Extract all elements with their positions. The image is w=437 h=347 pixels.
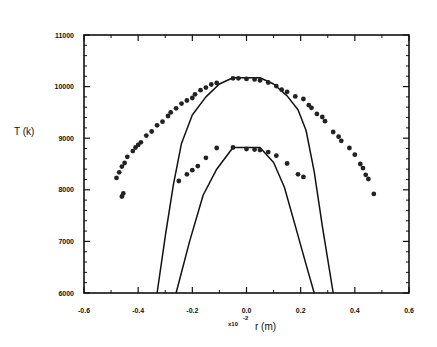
upper-measured-point — [274, 84, 279, 89]
upper-measured-point — [114, 176, 119, 181]
y-tick-label: 7000 — [58, 238, 74, 245]
lower-measured-point — [214, 146, 219, 151]
upper-measured-point — [285, 89, 290, 94]
upper-measured-point — [301, 97, 306, 102]
upper-measured-point — [198, 88, 203, 93]
upper-measured-point — [366, 177, 371, 182]
upper-measured-point — [352, 152, 357, 157]
upper-measured-point — [358, 162, 363, 167]
lower-measured-point — [296, 172, 301, 177]
upper-measured-point — [293, 94, 298, 99]
x-tick-label: 0.4 — [350, 307, 360, 314]
lower-measured-point — [258, 148, 263, 153]
upper-measured-point — [179, 101, 184, 106]
upper-measured-point — [185, 98, 190, 103]
lower-measured-point — [274, 153, 279, 158]
y-tick-labels: 60007000800090001000011000 — [55, 32, 75, 297]
lower-measured-point — [185, 172, 190, 177]
upper-measured-point — [168, 110, 173, 115]
upper-measured-point — [347, 146, 352, 151]
upper-measured-point — [309, 105, 314, 110]
x-tick-label: 0.6 — [404, 307, 414, 314]
upper-measured-point — [363, 172, 368, 177]
y-axis-title: T (k) — [14, 126, 34, 137]
lower-measured-point — [176, 179, 181, 184]
upper-measured-point — [339, 138, 344, 143]
upper-measured-point — [117, 170, 122, 175]
inner-model-curve — [176, 148, 314, 294]
lower-measured-point — [301, 175, 306, 180]
upper-measured-point — [279, 87, 284, 92]
upper-measured-point — [160, 119, 165, 124]
upper-measured-point — [320, 115, 325, 120]
upper-measured-point — [361, 166, 366, 171]
upper-measured-point — [231, 76, 236, 81]
upper-measured-point — [323, 119, 328, 124]
x-tick-label: 0.2 — [296, 307, 306, 314]
upper-measured-point — [174, 106, 179, 111]
upper-extra-point — [121, 191, 126, 196]
upper-measured-point — [236, 76, 241, 81]
x-tick-label: -0.4 — [132, 307, 144, 314]
model-curves — [157, 78, 333, 293]
x-multiplier-exponent: -2 — [243, 315, 249, 321]
lower-measured-point — [195, 164, 200, 169]
upper-measured-point — [209, 82, 214, 87]
upper-measured-point — [371, 192, 376, 197]
upper-measured-point — [336, 134, 341, 139]
upper-measured-point — [244, 77, 249, 82]
upper-measured-point — [125, 154, 130, 159]
upper-measured-point — [266, 80, 271, 85]
lower-measured-point — [231, 145, 236, 150]
y-tick-label: 8000 — [58, 186, 74, 193]
upper-measured-point — [193, 92, 198, 97]
upper-measured-point — [122, 161, 127, 166]
data-points — [114, 76, 376, 199]
x-tick-label: -0.6 — [78, 307, 90, 314]
x-tick-label: -0.2 — [186, 307, 198, 314]
y-tick-label: 6000 — [58, 290, 74, 297]
lower-measured-point — [204, 155, 209, 160]
lower-measured-point — [252, 147, 257, 152]
lower-measured-point — [244, 147, 249, 152]
upper-measured-point — [149, 129, 154, 134]
y-tick-label: 11000 — [55, 32, 74, 39]
x-tick-label: 0.0 — [242, 307, 252, 314]
upper-measured-point — [315, 112, 320, 117]
upper-measured-point — [252, 77, 257, 82]
upper-measured-point — [139, 140, 144, 145]
x-tick-labels: -0.6-0.4-0.20.00.20.40.6 — [78, 307, 414, 314]
upper-measured-point — [204, 85, 209, 90]
upper-measured-point — [258, 78, 263, 83]
lower-measured-point — [285, 161, 290, 166]
y-tick-label: 9000 — [58, 135, 74, 142]
x-multiplier: x10 — [228, 321, 239, 327]
upper-measured-point — [331, 130, 336, 135]
upper-measured-point — [155, 123, 160, 128]
x-axis-title: r (m) — [255, 321, 276, 332]
lower-measured-point — [266, 150, 271, 155]
upper-measured-point — [214, 81, 219, 86]
upper-measured-point — [144, 133, 149, 138]
lower-measured-point — [190, 168, 195, 173]
y-tick-label: 10000 — [55, 83, 75, 90]
chart: 60007000800090001000011000 -0.6-0.4-0.20… — [0, 0, 437, 347]
outer-model-curve — [157, 78, 333, 293]
